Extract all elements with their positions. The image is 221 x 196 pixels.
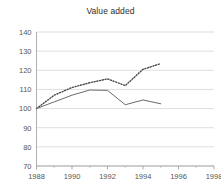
x-tick-label: 1988 bbox=[28, 172, 45, 181]
x-tick-label: 1992 bbox=[99, 172, 116, 181]
y-axis-tick-labels: 708090100110120130140 bbox=[19, 28, 32, 171]
y-tick-label: 110 bbox=[20, 85, 32, 94]
y-tick-label: 80 bbox=[23, 143, 31, 152]
y-tick-label: 130 bbox=[19, 47, 32, 56]
y-tick-label: 70 bbox=[23, 162, 31, 171]
x-axis-tick-labels: 198819901992199419961998 bbox=[28, 172, 221, 181]
y-tick-label: 120 bbox=[19, 66, 32, 75]
y-tick-label: 90 bbox=[23, 124, 31, 133]
series-line-solid bbox=[37, 90, 161, 109]
y-tick-label: 100 bbox=[19, 104, 32, 113]
x-tick-label: 1996 bbox=[170, 172, 187, 181]
x-tick-label: 1998 bbox=[206, 172, 221, 181]
chart-container: Value added 708090100110120130140 198819… bbox=[0, 0, 221, 196]
x-axis-ticks bbox=[37, 166, 215, 170]
x-tick-label: 1990 bbox=[64, 172, 81, 181]
y-tick-label: 140 bbox=[19, 28, 32, 37]
x-tick-label: 1994 bbox=[135, 172, 152, 181]
chart-plot: 708090100110120130140 198819901992199419… bbox=[0, 0, 221, 196]
